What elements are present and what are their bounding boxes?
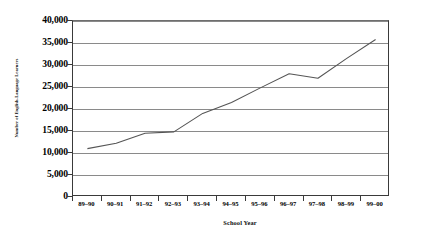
y-axis-title: Number of English-Language Learners xyxy=(9,0,23,196)
y-axis-tick-label: 25,000 xyxy=(8,81,68,91)
y-axis-tick-label: 20,000 xyxy=(8,103,68,113)
y-axis-tick-label: 5,000 xyxy=(8,169,68,179)
y-axis-tick-label: 30,000 xyxy=(8,59,68,69)
y-axis-tick-label: 35,000 xyxy=(8,37,68,47)
x-axis-title: School Year xyxy=(0,219,434,226)
caption-sliver xyxy=(8,231,308,237)
chart-figure: Number of English-Language Learners 40,0… xyxy=(0,0,434,237)
x-axis-tick-label: 99–00 xyxy=(352,201,398,208)
series-line xyxy=(87,39,375,148)
x-axis-title-text: School Year xyxy=(223,219,256,226)
y-axis-tick-label: 0 xyxy=(8,191,68,201)
y-axis-tick-label: 10,000 xyxy=(8,147,68,157)
line-series xyxy=(73,21,390,197)
y-axis-tick-label: 40,000 xyxy=(8,15,68,25)
plot-area xyxy=(72,20,389,196)
y-axis-tick-label: 15,000 xyxy=(8,125,68,135)
